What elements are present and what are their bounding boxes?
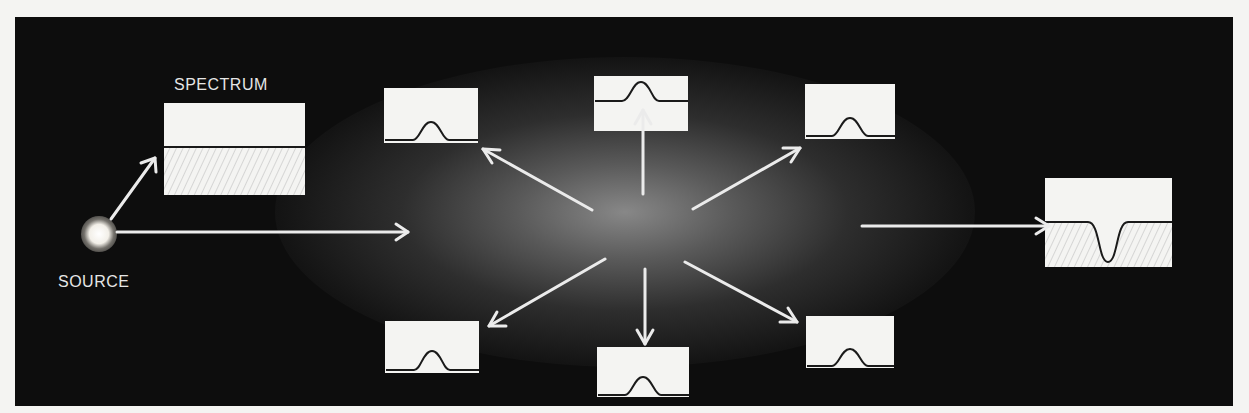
arrow-cloud-to-lower-right — [685, 262, 797, 322]
emission-box-lower-left — [385, 321, 479, 373]
arrow-cloud-to-upper-right — [693, 148, 800, 209]
emission-box-upper-right — [805, 84, 895, 139]
absorption-spectrum-box — [1045, 178, 1172, 267]
emission-box-bottom — [597, 347, 689, 397]
arrow-cloud-to-bottom — [637, 269, 653, 344]
arrow-cloud-to-upper-left — [483, 149, 592, 210]
continuous-spectrum-box — [164, 103, 305, 195]
emission-box-upper-left — [384, 88, 478, 143]
spectrum-label: SPECTRUM — [174, 76, 268, 94]
arrow-source-to-spectrum — [111, 158, 156, 219]
arrow-cloud-to-top — [635, 110, 651, 194]
arrow-cloud-to-absorption — [862, 218, 1049, 234]
diagram-overlay — [0, 0, 1249, 413]
source-label: SOURCE — [58, 273, 129, 291]
emission-box-lower-right — [806, 316, 894, 368]
arrow-cloud-to-lower-left — [489, 259, 605, 326]
arrow-source-to-cloud — [117, 224, 408, 240]
emission-box-top — [594, 76, 688, 131]
